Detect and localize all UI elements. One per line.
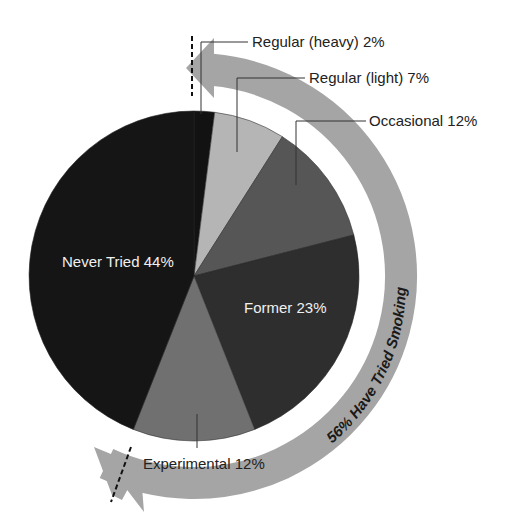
label-occasional: Occasional 12%	[369, 112, 477, 129]
arrow-head-top-icon	[186, 38, 214, 98]
pie-slices	[29, 111, 359, 441]
pie-chart: Regular (heavy) 2% Regular (light) 7% Oc…	[0, 0, 509, 532]
label-never-tried: Never Tried 44%	[62, 253, 174, 270]
label-regular-heavy: Regular (heavy) 2%	[252, 33, 385, 50]
label-former: Former 23%	[244, 299, 327, 316]
label-regular-light: Regular (light) 7%	[309, 69, 429, 86]
label-experimental: Experimental 12%	[143, 455, 265, 472]
